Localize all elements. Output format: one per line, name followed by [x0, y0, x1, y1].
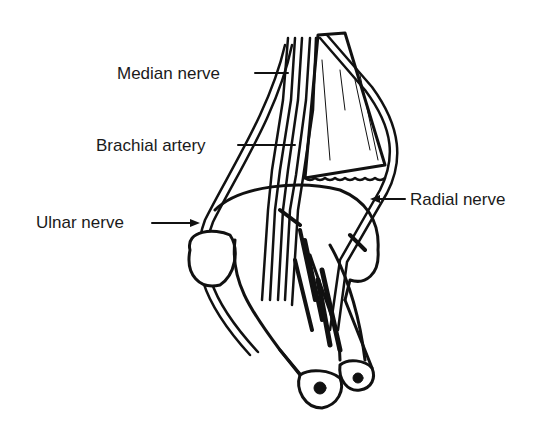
ulnar-nerve-label: Ulnar nerve	[36, 214, 124, 231]
median-nerve-label: Median nerve	[117, 65, 220, 82]
brachial-artery-label: Brachial artery	[96, 137, 206, 154]
radial-nerve-label: Radial nerve	[410, 191, 505, 208]
